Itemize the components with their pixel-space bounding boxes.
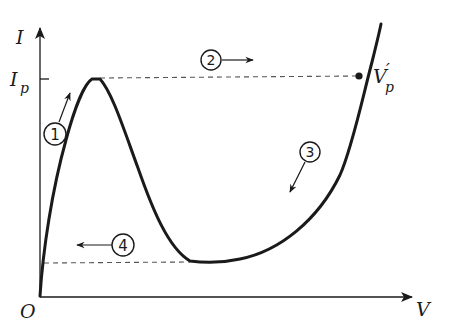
axes bbox=[40, 28, 412, 297]
step-2-marker: 2 bbox=[201, 50, 253, 70]
step-3-arrow bbox=[290, 162, 305, 192]
step-3-marker: 3 bbox=[290, 142, 320, 192]
y-axis-label: I bbox=[15, 26, 24, 48]
step-3-number: 3 bbox=[306, 144, 315, 160]
origin-label: O bbox=[20, 300, 36, 322]
iv-characteristic-diagram: I V O I p V ′ p 1 2 3 4 bbox=[0, 0, 450, 330]
vp-sub: p bbox=[385, 79, 394, 95]
step-4-number: 4 bbox=[118, 237, 128, 255]
step-1-number: 1 bbox=[50, 126, 60, 144]
ip-main: I bbox=[9, 68, 18, 90]
step-1-arrow bbox=[59, 93, 70, 122]
step-4-marker: 4 bbox=[77, 234, 134, 256]
peak-dashed-line bbox=[100, 76, 358, 78]
vp-prime: ′ bbox=[386, 59, 390, 79]
peak-current-label: I p bbox=[9, 68, 29, 96]
switch-point-dot bbox=[355, 72, 362, 79]
ip-sub: p bbox=[20, 80, 29, 96]
valley-dashed-line bbox=[44, 262, 190, 263]
step-2-number: 2 bbox=[207, 52, 216, 68]
step-1-marker: 1 bbox=[44, 93, 70, 145]
x-axis-label: V bbox=[416, 298, 432, 320]
switch-point-label: V ′ p bbox=[373, 59, 394, 95]
